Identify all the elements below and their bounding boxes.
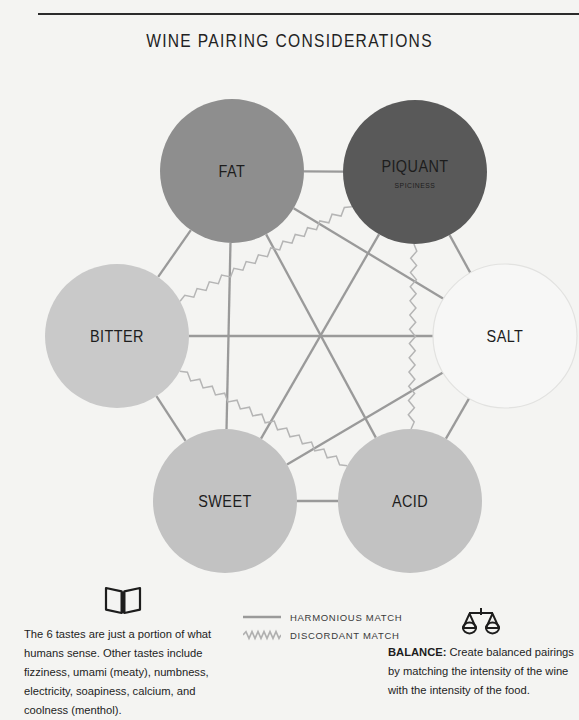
node-bitter[interactable]: BITTER — [45, 264, 189, 408]
note-left: The 6 tastes are just a portion of what … — [24, 625, 238, 720]
legend-item-discordant: DISCORDANT MATCH — [243, 627, 402, 643]
node-label-acid: ACID — [392, 492, 428, 510]
page-title: WINE PAIRING CONSIDERATIONS — [52, 30, 527, 52]
node-piquant[interactable]: PIQUANTSPICINESS — [343, 100, 487, 244]
note-left-text: The 6 tastes are just a portion of what … — [24, 625, 238, 720]
node-salt[interactable]: SALT — [433, 264, 577, 408]
legend-label-discordant: DISCORDANT MATCH — [290, 630, 400, 641]
note-right-text: BALANCE: Create balanced pairings by mat… — [388, 643, 578, 700]
taste-network-diagram: FATPIQUANTSPICINESSBITTERSALTSWEETACID — [0, 60, 579, 580]
node-label-bitter: BITTER — [90, 327, 144, 345]
link-harmonious-salt-acid — [446, 398, 469, 438]
node-label-salt: SALT — [487, 327, 524, 345]
legend-item-harmonious: HARMONIOUS MATCH — [243, 609, 402, 625]
node-fat[interactable]: FAT — [160, 99, 304, 243]
harmonious-line-swatch — [243, 611, 281, 623]
legend-label-harmonious: HARMONIOUS MATCH — [290, 612, 402, 623]
node-sweet[interactable]: SWEET — [153, 429, 297, 573]
link-harmonious-piquant-salt — [450, 235, 471, 273]
legend: HARMONIOUS MATCH DISCORDANT MATCH — [243, 609, 402, 645]
link-harmonious-bitter-sweet — [156, 396, 185, 441]
node-sublabel-piquant: SPICINESS — [395, 180, 436, 190]
network-svg: FATPIQUANTSPICINESSBITTERSALTSWEETACID — [0, 60, 579, 580]
node-label-fat: FAT — [219, 162, 246, 180]
link-harmonious-fat-bitter — [158, 230, 191, 277]
node-acid[interactable]: ACID — [338, 429, 482, 573]
balance-scales-icon — [461, 606, 501, 640]
header-rule — [38, 13, 579, 15]
note-right: BALANCE: Create balanced pairings by mat… — [388, 643, 578, 700]
node-label-sweet: SWEET — [198, 492, 251, 510]
note-right-lead: BALANCE: — [388, 646, 446, 658]
node-label-piquant: PIQUANT — [381, 157, 448, 175]
open-book-icon — [103, 583, 143, 617]
infographic-page: WINE PAIRING CONSIDERATIONS FATPIQUANTSP… — [0, 0, 579, 720]
discordant-zigzag-swatch — [243, 629, 281, 641]
